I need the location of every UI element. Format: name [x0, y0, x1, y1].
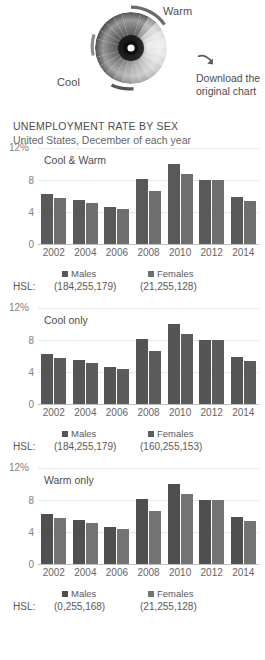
bar-females-2008[interactable]	[149, 351, 161, 404]
bar-females-2010[interactable]	[181, 494, 193, 564]
legend-swatch-males	[62, 591, 68, 597]
bar-males-2002[interactable]	[41, 194, 53, 244]
x-tick-2002: 2002	[38, 567, 70, 578]
download-text-line1: Download the	[196, 72, 264, 85]
bar-males-2012[interactable]	[199, 500, 211, 564]
hsl-key-label: HSL:	[13, 601, 35, 612]
bar-males-2010[interactable]	[168, 484, 180, 564]
bar-group-2014	[227, 308, 259, 404]
x-tick-2006: 2006	[101, 567, 133, 578]
y-axis-label-4: 4	[22, 367, 34, 378]
bar-males-2008[interactable]	[136, 179, 148, 244]
bar-males-2004[interactable]	[73, 200, 85, 244]
bar-group-2006	[101, 308, 133, 404]
bar-females-2002[interactable]	[54, 518, 66, 564]
bar-males-2008[interactable]	[136, 499, 148, 564]
bar-females-2004[interactable]	[86, 363, 98, 404]
download-original-chart-link[interactable]: Download the original chart	[196, 54, 264, 98]
bar-group-2012	[196, 308, 228, 404]
bar-group-2008	[133, 148, 165, 244]
page-title: UNEMPLOYMENT RATE BY SEX	[13, 120, 265, 132]
legend-item-males[interactable]: Males	[62, 588, 96, 599]
y-axis-label-0: 0	[22, 559, 34, 570]
y-axis-top-label: 12%	[9, 302, 29, 313]
x-tick-2008: 2008	[133, 247, 165, 258]
bar-group-2004	[70, 468, 102, 564]
bar-group-2002	[38, 308, 70, 404]
y-axis-label-8: 8	[22, 175, 34, 186]
bar-males-2006[interactable]	[104, 527, 116, 564]
bar-group-2014	[227, 148, 259, 244]
bar-group-2008	[133, 468, 165, 564]
cool-range-arc-left	[92, 35, 94, 56]
bar-females-2006[interactable]	[117, 369, 129, 404]
bar-males-2014[interactable]	[231, 517, 243, 564]
bar-group-2010	[164, 148, 196, 244]
bar-males-2004[interactable]	[73, 520, 85, 564]
bar-males-2014[interactable]	[231, 357, 243, 404]
chart-panel-3: 12%Warm only8402002200420062008201020122…	[0, 466, 265, 626]
chart-title-block: UNEMPLOYMENT RATE BY SEX United States, …	[0, 112, 265, 146]
bar-males-2008[interactable]	[136, 339, 148, 404]
chart-panel-1: 12%Cool & Warm84020022004200620082010201…	[0, 146, 265, 306]
bar-group-2012	[196, 148, 228, 244]
bar-males-2002[interactable]	[41, 354, 53, 404]
legend-item-females[interactable]: Females	[148, 428, 193, 439]
x-tick-2006: 2006	[101, 247, 133, 258]
legend-item-males[interactable]: Males	[62, 428, 96, 439]
x-tick-2008: 2008	[133, 567, 165, 578]
x-axis-ticks: 2002200420062008201020122014	[38, 567, 259, 578]
chart-plot-area: 12%Warm only8402002200420062008201020122…	[0, 466, 265, 588]
bar-females-2010[interactable]	[181, 334, 193, 404]
bar-females-2012[interactable]	[212, 180, 224, 244]
bar-females-2002[interactable]	[54, 198, 66, 244]
wheel-label-warm: Warm	[163, 5, 192, 17]
bar-females-2006[interactable]	[117, 529, 129, 564]
bar-males-2012[interactable]	[199, 340, 211, 404]
legend-label-females: Females	[157, 588, 193, 599]
curved-arrow-down-right-icon	[197, 54, 219, 71]
x-tick-2014: 2014	[227, 407, 259, 418]
bar-males-2006[interactable]	[104, 207, 116, 244]
bar-females-2008[interactable]	[149, 191, 161, 244]
bar-females-2010[interactable]	[181, 174, 193, 244]
x-tick-2002: 2002	[38, 247, 70, 258]
bar-females-2012[interactable]	[212, 340, 224, 404]
hsl-value-males: (184,255,179)	[54, 281, 116, 292]
bar-males-2002[interactable]	[41, 514, 53, 564]
bar-group-2006	[101, 468, 133, 564]
chart-legend: MalesFemales	[0, 268, 265, 281]
x-tick-2014: 2014	[227, 567, 259, 578]
x-tick-2002: 2002	[38, 407, 70, 418]
bar-females-2014[interactable]	[244, 361, 256, 404]
bar-males-2014[interactable]	[231, 197, 243, 244]
bar-males-2010[interactable]	[168, 164, 180, 244]
legend-item-males[interactable]: Males	[62, 268, 96, 279]
wheel-label-cool: Cool	[57, 76, 80, 88]
y-axis-label-8: 8	[22, 495, 34, 506]
y-axis-label-8: 8	[22, 335, 34, 346]
hsl-value-females: (160,255,153)	[140, 441, 202, 452]
bar-females-2002[interactable]	[54, 358, 66, 404]
legend-item-females[interactable]: Females	[148, 268, 193, 279]
bar-females-2014[interactable]	[244, 521, 256, 564]
bar-males-2012[interactable]	[199, 180, 211, 244]
bar-females-2004[interactable]	[86, 203, 98, 244]
bar-females-2006[interactable]	[117, 209, 129, 244]
x-tick-2010: 2010	[164, 247, 196, 258]
hsl-value-females: (21,255,128)	[140, 601, 197, 612]
bar-males-2006[interactable]	[104, 367, 116, 404]
bar-females-2014[interactable]	[244, 201, 256, 244]
legend-item-females[interactable]: Females	[148, 588, 193, 599]
x-tick-2010: 2010	[164, 567, 196, 578]
bar-females-2004[interactable]	[86, 523, 98, 564]
bar-females-2008[interactable]	[149, 511, 161, 564]
bar-females-2012[interactable]	[212, 500, 224, 564]
bar-males-2010[interactable]	[168, 324, 180, 404]
chart-panel-2: 12%Cool only8402002200420062008201020122…	[0, 306, 265, 466]
chart-legend: MalesFemales	[0, 588, 265, 601]
bar-groups	[38, 468, 259, 564]
y-axis-label-0: 0	[22, 399, 34, 410]
bar-males-2004[interactable]	[73, 360, 85, 404]
x-tick-2014: 2014	[227, 247, 259, 258]
